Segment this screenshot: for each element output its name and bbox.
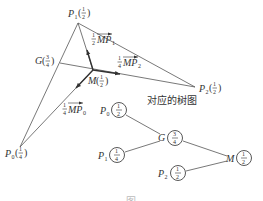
svg-text:1: 1 — [19, 146, 22, 152]
svg-text:P: P — [198, 83, 205, 94]
tree-edge-p2-m — [186, 161, 227, 171]
svg-text:2: 2 — [100, 82, 103, 88]
svg-text:4: 4 — [46, 62, 49, 68]
svg-text:MP: MP — [96, 34, 111, 45]
svg-text:1: 1 — [112, 40, 115, 46]
point-label-m: M ( 1 2 ) — [87, 74, 108, 88]
svg-text:): ) — [87, 7, 90, 19]
svg-text:1: 1 — [82, 6, 85, 12]
svg-text:4: 4 — [19, 154, 22, 160]
svg-text:1: 1 — [213, 81, 216, 87]
svg-text:1: 1 — [117, 103, 120, 109]
svg-text:1: 1 — [115, 148, 118, 154]
svg-text:1: 1 — [63, 102, 66, 108]
svg-text:4: 4 — [63, 110, 66, 116]
figure-canvas: P 1 ( 1 2 ) G ( 3 4 ) M ( 1 2 ) P — [0, 0, 263, 201]
svg-text:): ) — [218, 82, 221, 94]
vector-label-quarter-mp2: 1 4 MP 2 — [118, 55, 142, 69]
vector-label-quarter-mp0: 1 4 MP 0 — [63, 102, 87, 116]
svg-text:1: 1 — [118, 55, 121, 61]
vector-mp1 — [87, 50, 93, 70]
tree-edge-g-m — [183, 141, 227, 156]
tree-edge-p1-g — [125, 141, 160, 152]
point-label-p0: P 0 ( 1 4 ) — [4, 146, 27, 160]
svg-text:1: 1 — [242, 151, 245, 157]
svg-text:4: 4 — [173, 139, 176, 145]
svg-text:3: 3 — [46, 54, 49, 60]
svg-text:M: M — [225, 153, 235, 164]
svg-text:2: 2 — [82, 14, 85, 20]
svg-text:P: P — [99, 105, 106, 116]
svg-text:0: 0 — [83, 110, 86, 116]
svg-text:1: 1 — [176, 166, 179, 172]
svg-text:1: 1 — [100, 74, 103, 80]
svg-text:2: 2 — [165, 174, 168, 180]
figure-caption: 图 — [126, 196, 136, 201]
tree-edge-p0-g — [126, 115, 160, 134]
svg-text:P: P — [97, 150, 104, 161]
svg-text:P: P — [4, 148, 11, 159]
p1-letter: P — [67, 8, 74, 19]
svg-text:P: P — [157, 168, 164, 179]
tree-node-p1: P 1 1 4 — [97, 148, 125, 163]
tree-node-m: M 1 2 — [225, 151, 252, 166]
vector-mp2 — [93, 70, 120, 74]
svg-text:2: 2 — [117, 111, 120, 117]
segment-p1-p0 — [20, 23, 78, 147]
geometry-figure: P 1 ( 1 2 ) G ( 3 4 ) M ( 1 2 ) P — [4, 6, 221, 160]
tree-node-g: G 3 4 — [158, 131, 183, 146]
svg-text:1: 1 — [92, 32, 95, 38]
point-label-p1: P 1 ( 1 2 ) — [67, 6, 90, 20]
svg-text:4: 4 — [118, 63, 121, 69]
point-label-p2: P 2 ( 1 2 ) — [198, 81, 221, 95]
tree-caption: 对应的树图 — [147, 94, 197, 106]
svg-text:): ) — [105, 75, 108, 87]
svg-text:2: 2 — [138, 63, 141, 69]
svg-text:2: 2 — [213, 89, 216, 95]
svg-text:2: 2 — [92, 40, 95, 46]
tree-diagram: 对应的树图 P 0 1 2 G 3 4 P 1 1 — [97, 94, 252, 181]
vector-label-half-mp1: 1 2 MP 1 — [92, 32, 116, 46]
svg-text:2: 2 — [176, 174, 179, 180]
svg-text:1: 1 — [105, 156, 108, 162]
svg-text:2: 2 — [242, 159, 245, 165]
svg-text:G: G — [158, 132, 165, 143]
svg-text:0: 0 — [107, 111, 110, 117]
svg-text:): ) — [51, 55, 54, 67]
tree-node-p0: P 0 1 2 — [99, 103, 127, 118]
svg-text:4: 4 — [115, 156, 118, 162]
svg-text:3: 3 — [173, 131, 176, 137]
tree-node-p2: P 2 1 2 — [157, 166, 186, 181]
point-label-g: G ( 3 4 ) — [35, 54, 54, 68]
svg-text:): ) — [24, 147, 27, 159]
svg-text:MP: MP — [67, 104, 82, 115]
svg-text:MP: MP — [122, 57, 137, 68]
